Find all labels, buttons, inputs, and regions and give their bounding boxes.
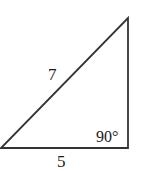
hypotenuse-label: 7: [48, 65, 57, 84]
triangle-diagram: 7 90° 5: [0, 0, 147, 172]
base-label: 5: [57, 152, 66, 171]
right-angle-label: 90°: [96, 128, 118, 145]
